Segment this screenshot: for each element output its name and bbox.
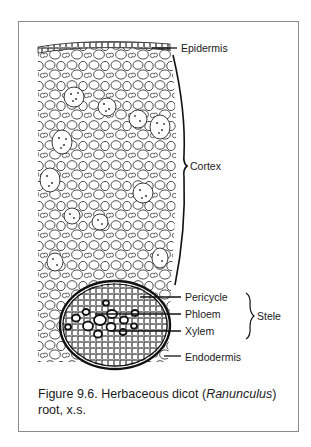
caption-genus: Ranunculus [206,387,272,401]
caption-suffix: ) [272,387,276,401]
label-endodermis: Endodermis [185,351,241,363]
caption-prefix: Figure 9.6. Herbaceous dicot ( [38,387,206,401]
figure-caption: Figure 9.6. Herbaceous dicot (Ranunculus… [38,386,296,418]
label-phloem: Phloem [185,308,221,320]
caption-line2: root, x.s. [38,403,86,417]
label-pericycle: Pericycle [185,291,228,303]
stele-brace [246,293,254,339]
label-stele: Stele [257,310,281,322]
label-cortex: Cortex [190,160,221,172]
label-epidermis: Epidermis [181,42,228,54]
label-xylem: Xylem [185,325,214,337]
root-cross-section-illustration [0,0,311,447]
